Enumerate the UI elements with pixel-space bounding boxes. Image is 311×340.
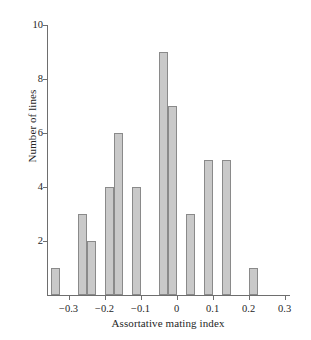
histogram-bar bbox=[168, 106, 177, 295]
histogram-bar bbox=[204, 160, 213, 295]
x-tick-label: −0.1 bbox=[121, 302, 161, 315]
x-tick-label: 0 bbox=[157, 302, 197, 315]
x-tick-label: 0.3 bbox=[265, 302, 305, 315]
histogram-figure: Number of lines 246810 −0.3−0.2−0.100.10… bbox=[0, 0, 311, 340]
histogram-bar bbox=[78, 214, 87, 295]
histogram-bar bbox=[105, 187, 114, 295]
x-tick-mark bbox=[249, 296, 250, 300]
x-tick-label: −0.3 bbox=[49, 302, 89, 315]
histogram-bar bbox=[186, 214, 195, 295]
y-tick-label: 6 bbox=[38, 126, 43, 139]
x-tick-mark bbox=[69, 296, 70, 300]
x-axis-title: Assortative mating index bbox=[46, 317, 290, 329]
x-tick-mark bbox=[141, 296, 142, 300]
x-tick-mark bbox=[105, 296, 106, 300]
x-axis-line bbox=[47, 295, 290, 296]
y-tick-label: 8 bbox=[38, 72, 43, 85]
x-tick-mark bbox=[177, 296, 178, 300]
histogram-bar bbox=[159, 52, 168, 295]
histogram-bar bbox=[114, 133, 123, 295]
x-tick-label: 0.1 bbox=[193, 302, 233, 315]
histogram-bar bbox=[249, 268, 258, 295]
bar-series bbox=[47, 25, 290, 295]
histogram-bar bbox=[132, 187, 141, 295]
histogram-bar bbox=[222, 160, 231, 295]
plot-area: 246810 −0.3−0.2−0.100.10.20.3 bbox=[47, 25, 290, 295]
x-tick-label: 0.2 bbox=[229, 302, 269, 315]
y-axis-title: Number of lines bbox=[26, 46, 38, 206]
y-tick-label: 2 bbox=[38, 234, 43, 247]
y-tick-label: 4 bbox=[38, 180, 43, 193]
x-tick-label: −0.2 bbox=[85, 302, 125, 315]
x-tick-mark bbox=[213, 296, 214, 300]
histogram-bar bbox=[51, 268, 60, 295]
histogram-bar bbox=[87, 241, 96, 295]
x-tick-mark bbox=[285, 296, 286, 300]
y-tick-label: 10 bbox=[33, 18, 44, 31]
